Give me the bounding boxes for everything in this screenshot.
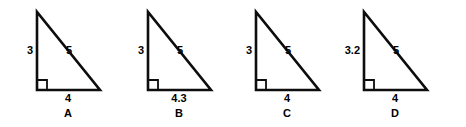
choice-letter-b: B <box>147 108 211 119</box>
choice-letter-d: D <box>363 108 427 119</box>
leg-length-label-a: 3 <box>3 45 33 56</box>
hypotenuse-length-label-c: 5 <box>285 45 291 56</box>
hypotenuse-length-label-d: 5 <box>393 45 399 56</box>
hypotenuse-length-label-a: 5 <box>66 45 72 56</box>
base-length-label-c: 4 <box>255 93 319 104</box>
choice-letter-c: C <box>255 108 319 119</box>
base-length-label-b: 4.3 <box>147 93 211 104</box>
triangle-choices-figure: 3 5 4 A 3 5 4.3 B 3 5 4 C 3.2 5 4 D <box>0 0 466 127</box>
triangle-choice-c[interactable]: 3 5 4 C <box>219 0 335 127</box>
base-length-label-d: 4 <box>363 93 427 104</box>
leg-length-label-b: 3 <box>114 45 144 56</box>
triangle-choice-a[interactable]: 3 5 4 A <box>0 0 116 127</box>
triangle-choice-d[interactable]: 3.2 5 4 D <box>327 0 443 127</box>
choice-letter-a: A <box>36 108 100 119</box>
hypotenuse-length-label-b: 5 <box>177 45 183 56</box>
leg-length-label-d: 3.2 <box>330 45 360 56</box>
leg-length-label-c: 3 <box>222 45 252 56</box>
base-length-label-a: 4 <box>36 93 100 104</box>
triangle-choice-b[interactable]: 3 5 4.3 B <box>111 0 227 127</box>
